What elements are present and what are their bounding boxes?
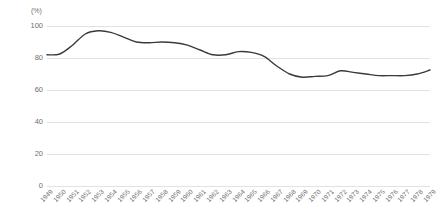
- y-axis-tick-label: 80: [21, 54, 43, 62]
- series-line: [47, 26, 430, 186]
- gridline: [47, 186, 430, 187]
- y-axis-unit-label: (%): [31, 7, 42, 15]
- x-axis-tick-labels: 1949195019511952195319541955195619571958…: [47, 188, 430, 218]
- y-axis-tick-label: 40: [21, 118, 43, 126]
- plot-area: [47, 26, 430, 186]
- y-axis-tick-label: 0: [21, 182, 43, 190]
- y-axis-tick-label: 100: [21, 22, 43, 30]
- y-axis-tick-label: 60: [21, 86, 43, 94]
- series-path: [47, 31, 430, 78]
- y-axis-tick-label: 20: [21, 150, 43, 158]
- line-chart: (%) 020406080100 19491950195119521953195…: [0, 0, 440, 218]
- y-axis-tick-labels: 020406080100: [19, 26, 43, 186]
